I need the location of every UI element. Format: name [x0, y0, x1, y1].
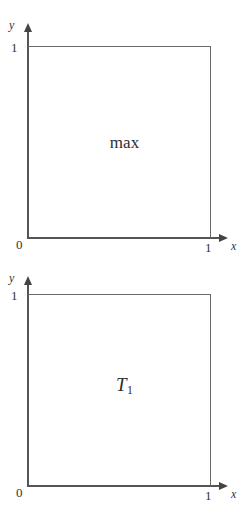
- y-axis-label-bottom: y: [9, 272, 14, 284]
- x-axis-arrow-bottom: [219, 482, 228, 490]
- region-label-t1-base: T: [116, 374, 127, 395]
- panel-top: y 1 x 0 1 max: [0, 0, 249, 264]
- y-tick-label-1-top: 1: [11, 41, 18, 54]
- y-axis-arrow-bottom: [24, 276, 32, 285]
- region-label-max: max: [0, 134, 249, 151]
- origin-label-top: 0: [16, 238, 23, 251]
- region-label-t1: T1: [0, 375, 249, 397]
- y-axis-arrow-top: [24, 23, 32, 32]
- y-axis-label-top: y: [9, 19, 14, 31]
- x-axis-label-bottom: x: [231, 488, 236, 500]
- y-tick-label-1-bottom: 1: [11, 289, 18, 302]
- unit-square-top-edge-bottom-panel: [28, 294, 211, 295]
- x-axis-label-top: x: [231, 240, 236, 252]
- unit-square-top-edge-top-panel: [28, 46, 211, 47]
- figure-canvas: { "figure": { "background_color": "#ffff…: [0, 0, 249, 527]
- x-axis-bottom: [27, 485, 220, 487]
- x-tick-label-1-top: 1: [205, 241, 212, 254]
- x-axis-top: [27, 237, 220, 239]
- panel-bottom: y 1 x 0 1 T1: [0, 264, 249, 527]
- x-tick-label-1-bottom: 1: [205, 489, 212, 502]
- region-label-t1-subscript: 1: [127, 384, 133, 397]
- x-axis-arrow-top: [219, 234, 228, 242]
- origin-label-bottom: 0: [16, 486, 23, 499]
